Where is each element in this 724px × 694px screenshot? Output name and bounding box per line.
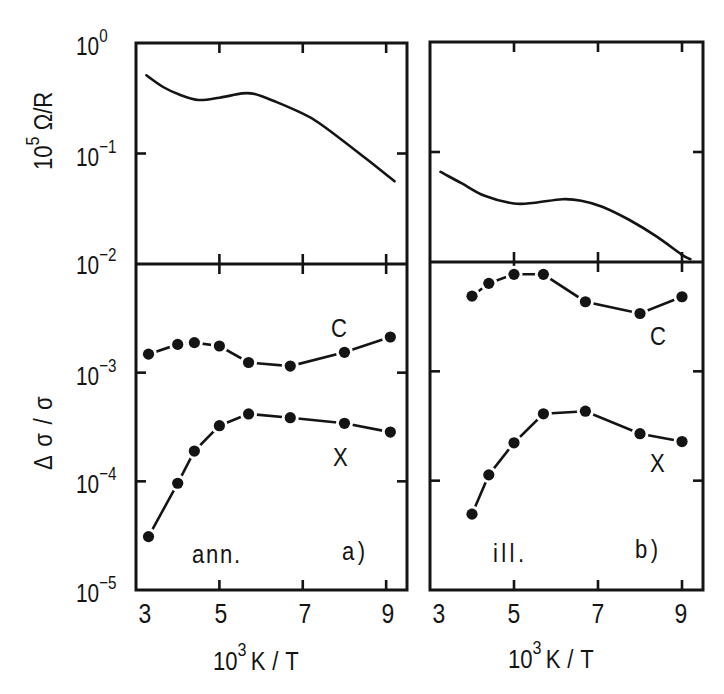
data-point-b-C (466, 291, 477, 302)
data-point-a-C (172, 339, 183, 350)
data-point-b-X (580, 406, 591, 417)
data-point-b-X (634, 428, 645, 439)
condition-label-b: ill. (493, 538, 527, 567)
data-point-b-X (538, 408, 549, 419)
data-point-a-X (285, 412, 296, 423)
data-point-b-C (634, 308, 645, 319)
x-tick-label-b-7: 7 (592, 598, 605, 628)
x-tick-label-b-9: 9 (675, 598, 688, 628)
data-curves (146, 75, 690, 536)
series-label-b-X: X (650, 448, 665, 477)
panel-a-frame (136, 43, 407, 590)
y-tick-label-1e-2: 10−2 (76, 243, 116, 279)
data-point-a-X (143, 531, 154, 542)
data-point-b-X (676, 436, 687, 447)
y-axis-title-top: 105 Ω/R (22, 92, 58, 170)
data-point-a-X (243, 408, 254, 419)
condition-label-a: ann. (192, 539, 242, 568)
data-point-a-C (385, 331, 396, 342)
curve-a-top (146, 75, 394, 181)
data-point-a-X (339, 418, 350, 429)
data-point-a-X (172, 478, 183, 489)
series-label-a-C: C (331, 313, 347, 342)
data-point-b-C (508, 269, 519, 280)
x-tick-label-b-5: 5 (508, 598, 521, 628)
x-axis-title-a: 103K/T (213, 639, 306, 676)
data-point-b-C (580, 296, 591, 307)
panel-frames (136, 42, 703, 590)
data-point-b-C (538, 269, 549, 280)
figure: 105 Ω/R Δσ/σ 100 10−1 10−2 10−3 10−4 10−… (0, 0, 724, 694)
y-tick-label-1e0: 100 (76, 24, 108, 60)
x-tick-label-a-9: 9 (382, 598, 395, 628)
curve-b-top (441, 172, 691, 259)
data-point-a-X (214, 420, 225, 431)
panel-label-a: a) (342, 536, 368, 565)
series-line-a-bottom-X (149, 414, 391, 537)
chart-canvas: 105 Ω/R Δσ/σ 100 10−1 10−2 10−3 10−4 10−… (0, 0, 724, 694)
data-point-b-C (483, 278, 494, 289)
series-label-a-X: X (333, 442, 348, 471)
x-axis-title-b: 103K/T (508, 637, 601, 674)
y-axis-title-bottom: Δσ/σ (28, 388, 57, 470)
data-point-b-X (508, 437, 519, 448)
data-point-a-X (385, 426, 396, 437)
x-tick-label-a-3: 3 (139, 598, 152, 628)
y-tick-label-1e-5: 10−5 (76, 571, 116, 607)
series-label-b-C: C (650, 321, 666, 350)
axis-ticks (136, 42, 703, 590)
data-point-a-C (214, 340, 225, 351)
data-point-a-C (285, 360, 296, 371)
data-point-a-X (189, 445, 200, 456)
data-point-a-C (243, 357, 254, 368)
data-point-a-C (189, 337, 200, 348)
x-tick-label-a-5: 5 (215, 598, 228, 628)
series-line-b-bottom-C (472, 274, 682, 313)
y-tick-label-1e-4: 10−4 (76, 462, 117, 498)
x-tick-label-b-3: 3 (433, 598, 446, 628)
data-point-a-C (339, 347, 350, 358)
y-tick-label-1e-3: 10−3 (76, 354, 116, 390)
data-point-b-C (676, 291, 687, 302)
y-tick-label-1e-1: 10−1 (76, 135, 116, 171)
data-point-b-X (483, 469, 494, 480)
x-tick-label-a-7: 7 (299, 598, 312, 628)
data-point-a-C (143, 349, 154, 360)
panel-label-b: b) (635, 534, 661, 563)
data-point-b-X (466, 509, 477, 520)
